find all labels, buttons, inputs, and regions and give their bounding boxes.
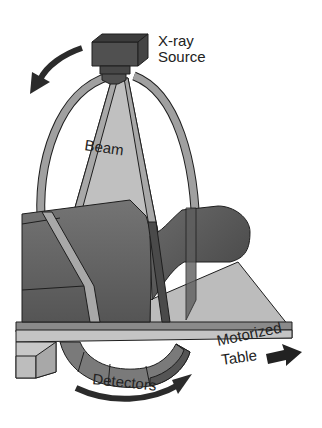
table-direction-arrow-icon (266, 344, 302, 366)
rotation-arrow-top-icon (30, 48, 82, 94)
xray-source-label-line2: Source (158, 48, 206, 65)
xray-source-label-line1: X-ray (158, 32, 194, 49)
ct-scanner-diagram: X-ray Source Beam Motorized Table Detect… (0, 0, 322, 428)
table-label: Table (220, 346, 258, 368)
